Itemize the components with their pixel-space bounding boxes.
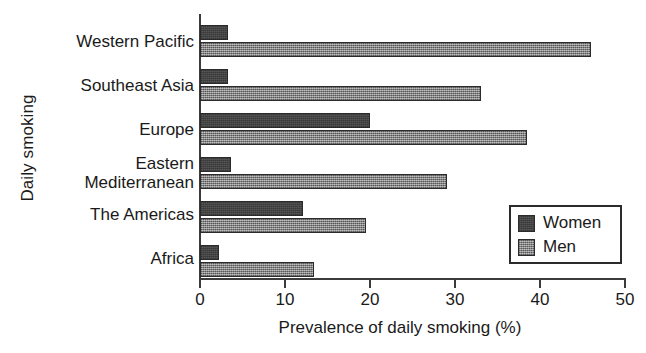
x-tick-20 xyxy=(369,280,371,288)
bar-eastern-mediterranean-women xyxy=(200,157,231,172)
category-label-europe: Europe xyxy=(24,120,194,139)
x-tick-50 xyxy=(624,280,626,288)
bar-western-pacific-men xyxy=(200,42,591,57)
legend-item-women[interactable]: Women xyxy=(518,212,601,234)
chart-container: Daily smoking Western Pacific Southeast … xyxy=(0,0,646,353)
x-axis-title: Prevalence of daily smoking (%) xyxy=(150,318,646,338)
bar-the-americas-women xyxy=(200,201,303,216)
category-label-southeast-asia: Southeast Asia xyxy=(24,76,194,95)
category-label-list: Western Pacific Southeast Asia Europe Ea… xyxy=(24,14,194,278)
bar-southeast-asia-men xyxy=(200,86,481,101)
bar-the-americas-men xyxy=(200,218,366,233)
bar-southeast-asia-women xyxy=(200,69,228,84)
bar-europe-men xyxy=(200,130,527,145)
bar-africa-women xyxy=(200,245,219,260)
legend-item-men[interactable]: Men xyxy=(518,236,576,258)
x-tick-0 xyxy=(199,280,201,288)
category-label-western-pacific: Western Pacific xyxy=(24,32,194,51)
x-axis-line xyxy=(199,278,626,280)
legend-swatch-men-icon xyxy=(518,239,535,256)
category-label-the-americas: The Americas xyxy=(24,205,194,224)
bar-europe-women xyxy=(200,113,370,128)
x-tick-label-40: 40 xyxy=(515,290,565,310)
bar-eastern-mediterranean-men xyxy=(200,174,447,189)
x-tick-label-10: 10 xyxy=(260,290,310,310)
x-tick-label-0: 0 xyxy=(175,290,225,310)
x-tick-30 xyxy=(454,280,456,288)
legend-swatch-women-icon xyxy=(518,215,535,232)
legend-label-men: Men xyxy=(543,237,576,257)
x-tick-label-50: 50 xyxy=(600,290,646,310)
bar-western-pacific-women xyxy=(200,25,228,40)
category-label-eastern-mediterranean: Eastern Mediterranean xyxy=(24,154,194,192)
legend-label-women: Women xyxy=(543,213,601,233)
bar-africa-men xyxy=(200,262,314,277)
x-tick-10 xyxy=(284,280,286,288)
legend: Women Men xyxy=(509,205,622,264)
category-label-africa: Africa xyxy=(24,249,194,268)
x-tick-40 xyxy=(539,280,541,288)
x-tick-label-20: 20 xyxy=(345,290,395,310)
x-tick-label-30: 30 xyxy=(430,290,480,310)
